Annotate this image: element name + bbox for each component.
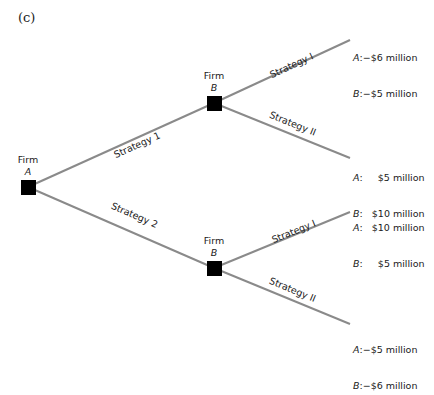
edge-btop-strategyII xyxy=(214,103,350,158)
firm-b-top-label: Firm B xyxy=(194,70,234,94)
node-firm-a xyxy=(21,180,36,195)
node-firm-b-top xyxy=(207,96,222,111)
payoff-1: A:−$6 million B:−$5 million xyxy=(353,28,417,112)
payoff-4: A:−$5 million B:−$6 million xyxy=(353,320,417,395)
firm-b-bottom-label: Firm B xyxy=(194,235,234,259)
firm-a-label: Firm A xyxy=(8,154,48,178)
edge-a-strategy2 xyxy=(28,187,214,268)
payoff-3: A: $10 million B: $5 million xyxy=(353,198,425,282)
edge-bbottom-strategyII xyxy=(214,268,350,324)
node-firm-b-bottom xyxy=(207,261,222,276)
